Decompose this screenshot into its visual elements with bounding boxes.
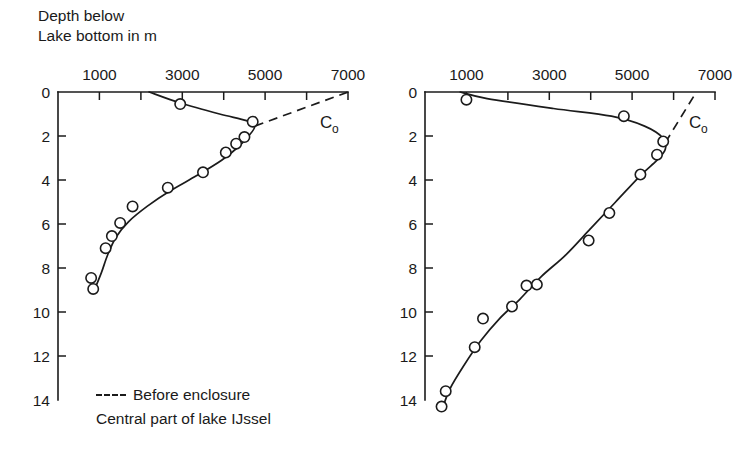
left-y-label-4: 4 — [41, 172, 50, 189]
left-x-ticks — [99, 92, 348, 100]
left-legend: Before enclosure — [96, 386, 250, 404]
dashed-line-icon — [96, 394, 126, 396]
left-x-label-7000: 7000 — [331, 66, 366, 83]
right-x-label-1000: 1000 — [449, 66, 484, 83]
data-point-marker — [127, 201, 137, 211]
left-y-ticks — [58, 136, 66, 356]
chart-panel-left: Depth below Lake bottom in m 1000 3000 — [0, 0, 380, 470]
left-axis-title-line1: Depth below — [38, 6, 157, 26]
left-before-enclosure-line — [255, 92, 348, 126]
right-y-label-0: 0 — [408, 84, 417, 101]
data-point-marker — [461, 95, 471, 105]
right-x-ticks — [466, 92, 715, 100]
right-y-label-6: 6 — [408, 216, 417, 233]
right-x-label-5000: 5000 — [615, 66, 650, 83]
data-point-marker — [86, 273, 96, 283]
right-y-label-2: 2 — [408, 128, 417, 145]
data-point-marker — [532, 279, 542, 289]
left-y-label-2: 2 — [41, 128, 50, 145]
data-point-marker — [521, 280, 531, 290]
data-point-marker — [619, 111, 629, 121]
right-y-label-10: 10 — [400, 304, 418, 321]
left-y-label-8: 8 — [41, 260, 50, 277]
data-point-marker — [88, 284, 98, 294]
left-legend-label: Before enclosure — [133, 386, 250, 404]
right-y-label-12: 12 — [400, 348, 417, 365]
right-c0-label: C — [689, 113, 701, 132]
data-point-marker — [198, 167, 208, 177]
right-fitted-curve — [442, 92, 666, 409]
left-axis-title: Depth below Lake bottom in m — [38, 6, 157, 46]
chart-panel-right: Cl′ content in p.p.m. 1000 3000 5000 700… — [374, 0, 754, 470]
right-x-label-7000: 7000 — [698, 66, 733, 83]
data-point-marker — [658, 136, 668, 146]
right-data-points — [436, 95, 668, 412]
left-axis-title-line2: Lake bottom in m — [38, 26, 157, 46]
data-point-marker — [470, 342, 480, 352]
before-enclosure-path — [255, 92, 348, 126]
right-chart-svg: 1000 3000 5000 7000 0 2 4 6 8 10 12 — [374, 0, 754, 470]
data-point-marker — [441, 386, 451, 396]
data-point-marker — [107, 231, 117, 241]
data-point-marker — [604, 208, 614, 218]
left-y-label-6: 6 — [41, 216, 50, 233]
left-y-label-10: 10 — [33, 304, 51, 321]
left-data-points — [86, 99, 258, 294]
fitted-curve-path — [95, 92, 255, 288]
data-point-marker — [231, 139, 241, 149]
data-point-marker — [115, 218, 125, 228]
left-caption: Central part of lake IJssel — [96, 410, 271, 428]
right-x-label-3000: 3000 — [532, 66, 567, 83]
right-y-ticks — [425, 136, 433, 356]
left-y-label-14: 14 — [33, 392, 51, 409]
left-y-label-12: 12 — [33, 348, 50, 365]
left-x-label-3000: 3000 — [165, 66, 200, 83]
data-point-marker — [507, 301, 517, 311]
left-y-tick-labels: 0 2 4 6 8 10 12 14 — [33, 84, 51, 409]
data-point-marker — [100, 243, 110, 253]
data-point-marker — [175, 99, 185, 109]
data-point-marker — [478, 313, 488, 323]
left-x-label-5000: 5000 — [248, 66, 283, 83]
right-y-label-8: 8 — [408, 260, 417, 277]
data-point-marker — [221, 147, 231, 157]
left-x-tick-labels: 1000 3000 5000 7000 — [82, 66, 365, 83]
data-point-marker — [436, 401, 446, 411]
left-c0-label: C — [320, 113, 332, 132]
left-fitted-curve — [95, 92, 255, 288]
data-point-marker — [248, 117, 258, 127]
right-c0-subscript: o — [701, 122, 708, 136]
left-y-label-0: 0 — [41, 84, 50, 101]
fitted-curve-path — [442, 92, 666, 409]
data-point-marker — [163, 183, 173, 193]
right-y-label-4: 4 — [408, 172, 417, 189]
right-x-tick-labels: 1000 3000 5000 7000 — [449, 66, 732, 83]
left-c0-subscript: o — [332, 122, 339, 136]
left-x-label-1000: 1000 — [82, 66, 117, 83]
right-y-label-14: 14 — [400, 392, 418, 409]
data-point-marker — [652, 150, 662, 160]
data-point-marker — [635, 169, 645, 179]
right-y-tick-labels: 0 2 4 6 8 10 12 14 — [400, 84, 418, 409]
data-point-marker — [583, 235, 593, 245]
figure-root: Depth below Lake bottom in m 1000 3000 — [0, 0, 754, 470]
